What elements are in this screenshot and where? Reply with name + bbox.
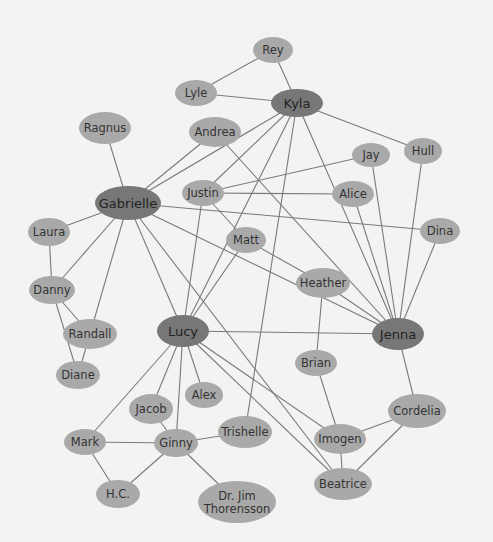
edge-gabrielle-jenna [128, 203, 398, 334]
node-label: Brian [301, 356, 331, 370]
edge-kyla-trishelle [245, 103, 297, 432]
node-label: Thorensson [203, 502, 271, 516]
node-label: Ragnus [84, 121, 127, 135]
node-jenna: Jenna [372, 318, 424, 350]
node-label: Matt [233, 233, 259, 247]
node-ragnus: Ragnus [79, 112, 131, 144]
edge-lucy-jenna [183, 331, 398, 334]
node-label: Beatrice [319, 477, 367, 491]
node-justin: Justin [182, 180, 224, 206]
node-label: Kyla [284, 96, 311, 111]
node-imogen: Imogen [314, 424, 366, 454]
network-graph-canvas: ReyLyleKylaRagnusAndreaHullJayGabrielleJ… [0, 0, 493, 542]
node-label: Heather [300, 276, 347, 290]
node-gabrielle: Gabrielle [95, 186, 161, 220]
node-label: Jay [361, 148, 379, 162]
node-label: H.C. [106, 487, 130, 501]
edge-hull-jenna [398, 151, 423, 334]
node-label: Jenna [379, 327, 416, 342]
node-label: Danny [33, 283, 70, 297]
node-rey: Rey [253, 37, 293, 63]
node-label: Dina [427, 224, 453, 238]
edge-gabrielle-dina [128, 203, 440, 231]
node-label: Laura [33, 225, 66, 239]
node-laura: Laura [28, 218, 70, 246]
node-drjim: Dr. JimThorensson [198, 481, 276, 523]
node-label: Andrea [194, 125, 235, 139]
node-label: Alice [339, 187, 367, 201]
node-andrea: Andrea [189, 117, 241, 147]
node-label: Dr. Jim [218, 489, 256, 503]
node-danny: Danny [29, 276, 75, 304]
node-lyle: Lyle [175, 80, 217, 106]
node-brian: Brian [295, 350, 337, 376]
node-jacob: Jacob [129, 394, 173, 424]
node-label: Imogen [318, 432, 361, 446]
node-matt: Matt [226, 227, 266, 253]
node-label: Justin [186, 186, 219, 200]
node-beatrice: Beatrice [314, 468, 372, 500]
edge-alice-jenna [353, 194, 398, 334]
node-label: Hull [412, 144, 434, 158]
node-lucy: Lucy [157, 315, 209, 347]
node-label: Rey [262, 43, 284, 57]
node-label: Lyle [185, 86, 207, 100]
node-hc: H.C. [96, 480, 140, 508]
node-label: Ginny [159, 436, 193, 450]
node-diane: Diane [56, 361, 100, 389]
edge-justin-alice [203, 193, 353, 194]
node-trishelle: Trishelle [218, 416, 272, 448]
node-label: Cordelia [393, 404, 440, 418]
node-ginny: Ginny [154, 429, 198, 457]
node-dina: Dina [420, 218, 460, 244]
edge-lucy-ginny [176, 331, 183, 443]
edge-gabrielle-randall [90, 203, 128, 334]
edge-jay-jenna [371, 155, 398, 334]
edge-gabrielle-lucy [128, 203, 183, 331]
node-label: Alex [192, 388, 217, 402]
network-diagram: ReyLyleKylaRagnusAndreaHullJayGabrielleJ… [0, 0, 493, 542]
node-cordelia: Cordelia [388, 394, 446, 428]
node-label: Diane [61, 368, 94, 382]
node-randall: Randall [63, 319, 117, 349]
node-label: Jacob [134, 402, 166, 416]
node-label: Gabrielle [99, 196, 157, 211]
node-label: Randall [69, 327, 112, 341]
node-mark: Mark [64, 429, 106, 455]
node-label: Lucy [168, 324, 198, 339]
node-jay: Jay [352, 143, 390, 167]
node-heather: Heather [296, 268, 350, 298]
node-alex: Alex [185, 382, 223, 408]
node-hull: Hull [404, 138, 442, 164]
node-alice: Alice [332, 181, 374, 207]
node-kyla: Kyla [271, 89, 323, 117]
nodes-layer: ReyLyleKylaRagnusAndreaHullJayGabrielleJ… [28, 37, 460, 523]
node-label: Trishelle [220, 425, 268, 439]
edge-kyla-justin [203, 103, 297, 193]
node-label: Mark [71, 435, 100, 449]
